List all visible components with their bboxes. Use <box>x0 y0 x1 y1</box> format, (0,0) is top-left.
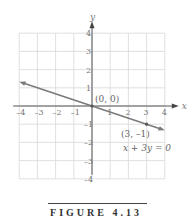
figure-caption: FIGURE 4.13 <box>0 207 192 218</box>
svg-text:–1: –1 <box>84 120 93 129</box>
svg-text:–3: –3 <box>34 108 43 117</box>
svg-text:–1: –1 <box>71 108 80 117</box>
caption-rule <box>48 203 147 204</box>
svg-text:x + 3y = 0: x + 3y = 0 <box>123 143 171 153</box>
svg-text:(0, 0): (0, 0) <box>95 94 119 104</box>
svg-text:x: x <box>182 101 187 111</box>
svg-text:1: 1 <box>86 84 91 93</box>
svg-text:y: y <box>89 12 96 22</box>
svg-text:(3, –1): (3, –1) <box>121 129 150 139</box>
svg-text:4: 4 <box>86 29 91 38</box>
coordinate-plot: xy–4–3–2–112344321–1–2–3–4 (0, 0)(3, –1)… <box>0 0 192 200</box>
svg-text:–4: –4 <box>84 175 93 184</box>
svg-text:3: 3 <box>86 47 91 56</box>
svg-text:3: 3 <box>144 108 149 117</box>
svg-text:–2: –2 <box>84 138 93 147</box>
svg-text:–2: –2 <box>53 108 62 117</box>
annotations: (0, 0)(3, –1)x + 3y = 0 <box>95 94 171 153</box>
svg-text:2: 2 <box>86 66 91 75</box>
svg-text:2: 2 <box>125 108 130 117</box>
svg-text:–3: –3 <box>84 157 93 166</box>
svg-text:4: 4 <box>162 108 167 117</box>
svg-text:–4: –4 <box>16 108 25 117</box>
